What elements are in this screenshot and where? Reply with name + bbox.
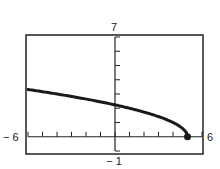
ymin-label: − 1	[106, 155, 122, 167]
xmax-label: 6	[207, 131, 213, 143]
endpoint-marker	[184, 133, 191, 140]
ymax-label: 7	[111, 21, 117, 33]
function-curve	[28, 89, 188, 136]
graph: 7 − 6 6 − 1	[0, 0, 220, 169]
xmin-label: − 6	[3, 131, 19, 143]
